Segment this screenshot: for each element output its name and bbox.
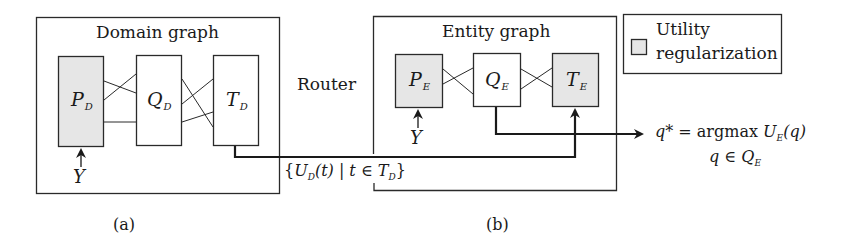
legend-label-line1: Utility xyxy=(656,21,710,38)
output-connector-q-e xyxy=(496,107,642,134)
caption-a: (a) xyxy=(113,217,135,233)
node-t-e-label: TE xyxy=(566,70,587,92)
entity-graph-title: Entity graph xyxy=(442,23,550,40)
domain-graph-title: Domain graph xyxy=(96,24,219,41)
node-p-e-label: PE xyxy=(409,70,430,92)
entity-edges-q-t xyxy=(521,68,552,89)
node-p-d-label: PD xyxy=(71,90,93,112)
entity-edges-p-q xyxy=(443,68,473,94)
output-equation-line1: q* = argmax UE(q) xyxy=(655,124,806,143)
node-q-e-label: QE xyxy=(485,70,509,92)
router-label: Router xyxy=(297,76,356,93)
entity-input-label: Y xyxy=(410,129,422,147)
output-equation-line2: q ∈ QE xyxy=(709,149,761,168)
domain-edges-p-q xyxy=(104,74,136,122)
node-t-d-label: TD xyxy=(226,90,248,112)
caption-b: (b) xyxy=(486,217,509,233)
domain-edges-q-t xyxy=(182,79,213,127)
legend-swatch-shaded xyxy=(632,40,647,55)
router-message: {UD(t) | t ∈ TD} xyxy=(284,163,406,182)
node-q-d-label: QD xyxy=(147,90,172,112)
domain-input-label: Y xyxy=(73,168,85,186)
legend-label-line2: regularization xyxy=(656,45,778,62)
